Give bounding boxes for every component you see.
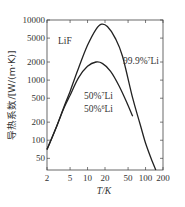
- x-tick-label: 2: [45, 173, 50, 183]
- series-2-label-line2: 50%6Li: [84, 104, 113, 114]
- x-tick-label: 10: [83, 173, 93, 183]
- y-tick-label: 2000: [27, 57, 46, 67]
- x-tick-label: 50: [124, 173, 134, 183]
- y-tick-label: 10000: [23, 15, 46, 25]
- series-1-label: 99.9%7Li: [123, 56, 159, 66]
- x-tick-label: 20: [101, 173, 111, 183]
- y-tick-label: 50: [36, 153, 46, 163]
- y-tick-label: 500: [32, 93, 46, 103]
- y-tick-label: 1000: [27, 75, 46, 85]
- x-axis-title: T/K: [97, 186, 112, 196]
- y-axis-title: 导热系数/[W/(m·K)]: [6, 50, 17, 139]
- y-tick-label: 5000: [27, 33, 46, 43]
- x-tick-label: 100: [139, 173, 153, 183]
- y-axis: 5010020050010002000500010000: [23, 15, 164, 163]
- x-tick-label: 5: [68, 173, 73, 183]
- y-tick-label: 100: [32, 135, 46, 145]
- series-2-label-line1: 50%7Li: [84, 91, 113, 101]
- x-tick-label: 200: [156, 173, 170, 183]
- material-label: LiF: [58, 36, 72, 46]
- y-tick-label: 200: [32, 117, 46, 127]
- chart: 25102050100200 5010020050010002000500010…: [0, 0, 185, 207]
